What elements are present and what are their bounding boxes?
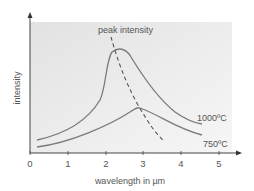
peak-intensity-label: peak intensity [98, 25, 154, 35]
x-tick-label: 2 [103, 158, 108, 169]
legend-750c: 750ºC [203, 139, 228, 149]
chart: 0 1 2 3 4 5 wavelength in µm intensity p… [0, 0, 254, 191]
x-axis-arrow-icon [236, 151, 242, 156]
x-tick-label: 3 [140, 158, 145, 169]
y-axis-arrow-icon [28, 12, 33, 18]
x-tick-label: 0 [27, 158, 32, 169]
x-tick-label: 1 [65, 158, 70, 169]
y-axis-label: intensity [12, 71, 22, 105]
x-tick-label: 5 [216, 158, 221, 169]
x-axis-label: wavelength in µm [94, 176, 165, 186]
x-tick-label: 4 [178, 158, 183, 169]
legend-1000c: 1000ºC [197, 113, 227, 123]
